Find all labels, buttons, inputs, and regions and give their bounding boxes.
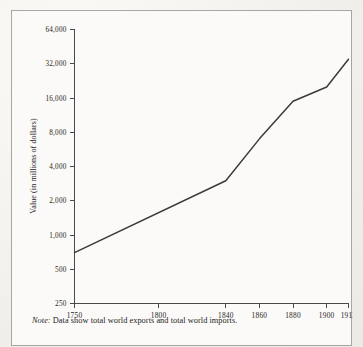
- note-label: Note:: [32, 316, 51, 325]
- figure-frame: 2505001,0002,0004,0008,00016,00032,00064…: [11, 10, 352, 346]
- x-axis-tick-label: 1913: [341, 311, 353, 320]
- y-axis-tick-label: 2,000: [49, 197, 66, 205]
- y-axis-tick-label: 16,000: [46, 95, 67, 103]
- figure-note: Note: Data show total world exports and …: [32, 316, 342, 326]
- chart-plot-area: 2505001,0002,0004,0008,00016,00032,00064…: [12, 11, 353, 347]
- world-trade-series-line: [75, 59, 349, 252]
- y-axis-tick-label: 500: [55, 266, 67, 274]
- y-axis-tick-label: 8,000: [49, 129, 66, 137]
- y-axis-tick-label: 1,000: [49, 232, 66, 240]
- chart-axes: [75, 30, 349, 304]
- x-axis-ticks: [75, 304, 349, 309]
- y-axis-ticks: [70, 30, 75, 304]
- world-trade-line-chart: 2505001,0002,0004,0008,00016,00032,00064…: [12, 11, 353, 347]
- y-axis-tick-label: 32,000: [46, 60, 67, 68]
- note-text: Data show total world exports and total …: [51, 316, 238, 325]
- scanned-page: 2505001,0002,0004,0008,00016,00032,00064…: [0, 0, 363, 347]
- y-axis-tick-label: 64,000: [46, 26, 67, 34]
- y-axis-tick-label: 250: [55, 300, 67, 308]
- y-axis-title: Value (in millions of dollars): [29, 118, 38, 214]
- y-axis-tick-label: 4,000: [49, 163, 66, 171]
- y-axis-tick-labels: 2505001,0002,0004,0008,00016,00032,00064…: [46, 26, 67, 308]
